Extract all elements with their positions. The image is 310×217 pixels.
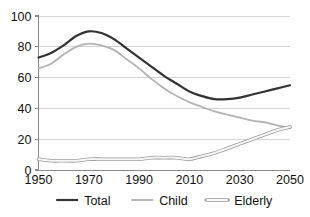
- x-tick-label: 1990: [125, 173, 153, 187]
- y-tick-label: 60: [18, 71, 32, 85]
- legend-label-total: Total: [84, 194, 110, 208]
- y-tick-label: 100: [11, 10, 32, 24]
- line-chart: 020406080100 195019701990201020302050 To…: [0, 0, 310, 217]
- chart-container: 020406080100 195019701990201020302050 To…: [0, 0, 310, 217]
- legend-label-elderly: Elderly: [234, 194, 273, 208]
- x-tick-label: 2030: [226, 173, 254, 187]
- chart-legend: TotalChildElderly: [56, 194, 273, 208]
- x-tick-label: 1950: [25, 173, 53, 187]
- y-tick-label: 20: [18, 133, 32, 147]
- legend-label-child: Child: [159, 194, 188, 208]
- x-tick-label: 2010: [175, 173, 203, 187]
- x-tick-label: 2050: [276, 173, 304, 187]
- y-tick-label: 40: [18, 102, 32, 116]
- y-tick-label: 80: [18, 40, 32, 54]
- x-tick-label: 1970: [75, 173, 103, 187]
